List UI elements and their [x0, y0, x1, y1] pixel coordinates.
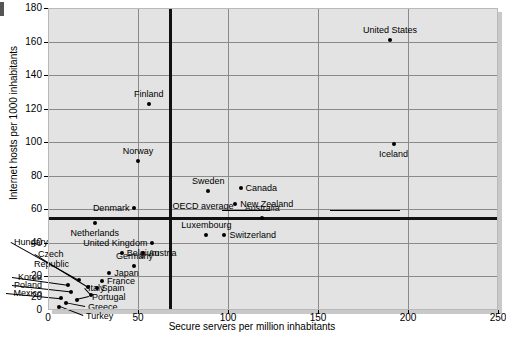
y-axis-tick-mark	[44, 109, 48, 110]
point-label: Switzerland	[229, 230, 276, 239]
y-axis-tick-label: 40	[31, 238, 42, 248]
point-label: Finland	[134, 89, 164, 98]
data-point	[147, 102, 151, 106]
data-point	[260, 216, 264, 220]
y-axis-title: Internet hosts per 1000 inhabitants	[9, 13, 19, 233]
point-label: Netherlands	[71, 228, 120, 237]
y-axis-tick-label: 80	[31, 171, 42, 181]
plot-area: OECD averageUnited StatesIcelandFinlandN…	[48, 8, 498, 310]
point-label: Germany	[116, 252, 153, 261]
point-label: Portugal	[92, 293, 126, 302]
x-axis-title: Secure servers per million inhabitants	[0, 322, 504, 332]
point-label: Australia	[245, 203, 280, 212]
x-axis-tick-mark	[408, 310, 409, 314]
label-leader-line	[77, 296, 89, 300]
gridline-horizontal	[48, 176, 498, 177]
x-axis-tick-mark	[228, 310, 229, 314]
gridline-horizontal	[48, 42, 498, 43]
oecd-average-line-horizontal	[48, 217, 498, 220]
y-axis-tick-mark	[44, 209, 48, 210]
point-label: Sweden	[192, 176, 225, 185]
point-label: Denmark	[93, 203, 130, 212]
point-label: Canada	[246, 183, 278, 192]
page-corner-mark	[0, 2, 4, 16]
gridline-vertical	[318, 8, 319, 310]
point-label: Norway	[123, 146, 154, 155]
point-label: Iceland	[379, 149, 408, 158]
y-axis-tick-mark	[44, 75, 48, 76]
data-point	[93, 221, 97, 225]
data-point	[107, 271, 111, 275]
gridline-horizontal	[48, 142, 498, 143]
gridline-horizontal	[48, 75, 498, 76]
gridline-vertical	[408, 8, 409, 310]
y-axis-tick-mark	[44, 8, 48, 9]
data-point	[136, 159, 140, 163]
y-axis-tick-label: 60	[31, 204, 42, 214]
gridline-horizontal	[48, 8, 498, 9]
x-axis-tick-mark	[138, 310, 139, 314]
data-point	[392, 142, 396, 146]
y-axis-tick-mark	[44, 176, 48, 177]
data-point	[222, 233, 226, 237]
y-axis-tick-label: 120	[25, 104, 42, 114]
point-label: United Kingdom	[83, 238, 147, 247]
data-point	[204, 233, 208, 237]
gridline-vertical	[228, 8, 229, 310]
point-label: Czech	[38, 250, 64, 259]
data-point	[150, 241, 154, 245]
data-point	[206, 189, 210, 193]
oecd-average-line-vertical	[169, 8, 172, 310]
point-label: United States	[363, 25, 417, 34]
y-axis-tick-mark	[44, 42, 48, 43]
y-axis-tick-label: 180	[25, 3, 42, 13]
data-point	[388, 38, 392, 42]
data-point	[132, 206, 136, 210]
data-point	[239, 186, 243, 190]
y-axis-tick-label: 0	[36, 305, 42, 315]
y-axis-tick-mark	[44, 276, 48, 277]
point-label: Luxembourg	[181, 220, 231, 229]
label-leader-line	[66, 302, 85, 307]
x-axis-tick-mark	[318, 310, 319, 314]
oecd-average-rule	[330, 210, 400, 211]
x-axis-tick-mark	[498, 310, 499, 314]
y-axis-tick-mark	[44, 243, 48, 244]
y-axis-tick-mark	[44, 142, 48, 143]
y-axis-tick-label: 100	[25, 137, 42, 147]
y-axis-tick-label: 160	[25, 37, 42, 47]
gridline-horizontal	[48, 109, 498, 110]
point-label: Turkey	[86, 312, 113, 321]
y-axis-tick-label: 20	[31, 292, 42, 302]
y-axis-tick-label: 140	[25, 70, 42, 80]
y-axis-tick-label: 20	[31, 271, 42, 281]
data-point	[233, 202, 237, 206]
